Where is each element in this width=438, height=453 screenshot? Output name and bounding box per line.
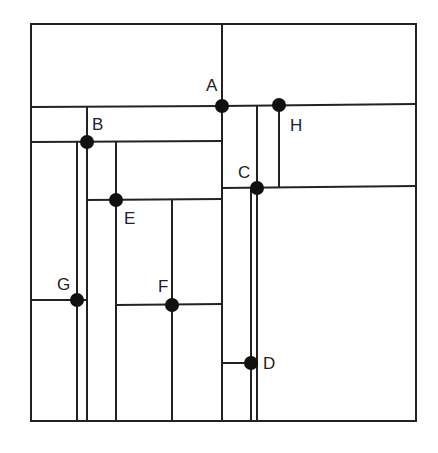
split-line-e-horizontal (87, 199, 222, 200)
label-g: G (57, 275, 70, 294)
point-c (250, 181, 264, 195)
point-h (272, 98, 286, 112)
kd-tree-diagram: A B C D E F G H (0, 0, 438, 453)
point-a (215, 99, 229, 113)
point-b (80, 135, 94, 149)
point-e (109, 193, 123, 207)
point-g (70, 293, 84, 307)
label-d: D (263, 354, 275, 373)
split-line-left-top (31, 106, 222, 107)
label-b: B (92, 115, 103, 134)
split-line-b-horizontal (31, 141, 222, 142)
split-line-h (222, 104, 416, 106)
label-f: F (158, 277, 168, 296)
point-d (244, 356, 258, 370)
outer-boundary (31, 24, 416, 421)
label-a: A (206, 76, 218, 95)
point-f (165, 298, 179, 312)
label-e: E (124, 209, 135, 228)
label-c: C (238, 163, 250, 182)
label-h: H (290, 116, 302, 135)
